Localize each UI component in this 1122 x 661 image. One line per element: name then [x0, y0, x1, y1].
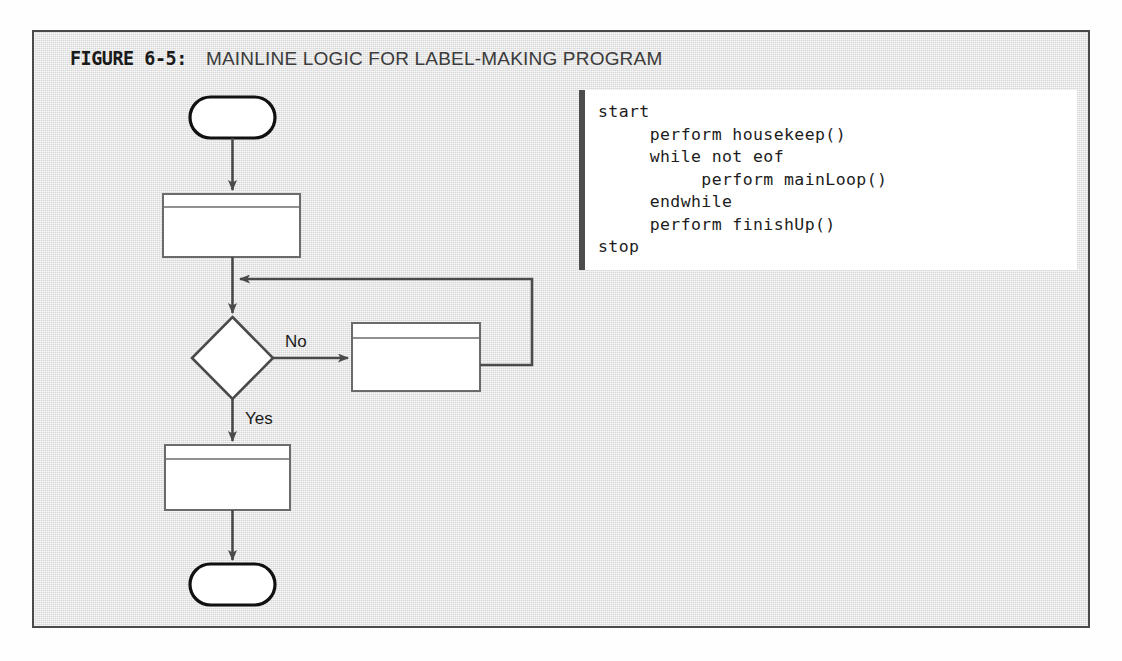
- node-stop-shape: [190, 564, 275, 605]
- figure-title: MAINLINE LOGIC FOR LABEL-MAKING PROGRAM: [206, 48, 663, 69]
- node-start-shape: [190, 97, 275, 138]
- figure-number: FIGURE 6-5:: [70, 46, 187, 70]
- node-mainloop-shape: [352, 323, 480, 391]
- pseudocode-panel: start perform housekeep() while not eof …: [579, 90, 1077, 270]
- node-housekeep-shape: [163, 194, 300, 257]
- node-eof-shape: [192, 317, 273, 399]
- figure-caption: FIGURE 6-5:MAINLINE LOGIC FOR LABEL-MAKI…: [70, 46, 662, 70]
- pseudocode-text: start perform housekeep() while not eof …: [598, 101, 887, 259]
- figure-frame: FIGURE 6-5:MAINLINE LOGIC FOR LABEL-MAKI…: [32, 30, 1090, 628]
- pseudocode-accent-bar: [579, 90, 585, 270]
- scanned-page: FIGURE 6-5:MAINLINE LOGIC FOR LABEL-MAKI…: [0, 0, 1122, 661]
- node-finishup-shape: [165, 445, 290, 510]
